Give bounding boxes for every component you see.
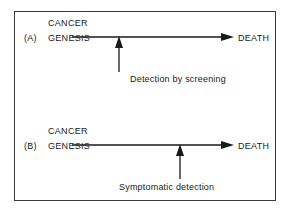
panel-b-detection-caption: Symptomatic detection	[119, 182, 214, 192]
panel-b-origin-line1: CANCER	[48, 126, 88, 136]
panel-a-detection-caption: Detection by screening	[130, 74, 226, 84]
panel-b-origin-line2: GENESIS	[48, 141, 90, 151]
panel-b-endpoint-label: DEATH	[238, 141, 269, 151]
panel-a-origin-line1: CANCER	[48, 18, 88, 28]
panel-a-label: (A)	[24, 33, 37, 43]
panel-a-endpoint-label: DEATH	[238, 33, 269, 43]
figure-container: (A) CANCER GENESIS DEATH Detection by sc…	[0, 0, 290, 215]
panel-a-origin-line2: GENESIS	[48, 33, 90, 43]
panel-b-label: (B)	[24, 141, 37, 151]
